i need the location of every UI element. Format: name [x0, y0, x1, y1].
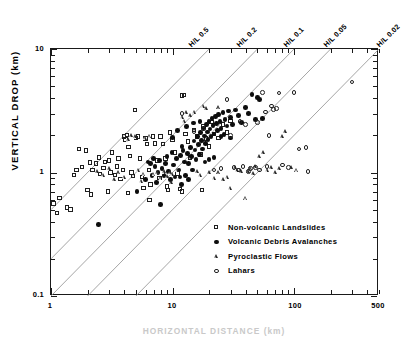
data-point — [153, 141, 157, 145]
data-point — [178, 153, 183, 158]
y-tick-right — [371, 296, 377, 297]
data-point — [243, 105, 248, 110]
y-tick-right — [373, 76, 377, 77]
data-point — [306, 169, 311, 174]
x-tick-top — [154, 49, 155, 53]
data-point — [170, 172, 174, 176]
data-point — [126, 137, 130, 141]
data-point — [225, 97, 230, 102]
data-point — [116, 170, 120, 174]
data-point — [139, 179, 143, 183]
x-tick-top — [275, 49, 276, 53]
data-point — [257, 168, 262, 173]
x-tick — [282, 290, 283, 294]
x-tick — [109, 290, 110, 294]
data-point — [116, 156, 120, 160]
data-point — [133, 108, 137, 112]
hl-label-0.5: H/L 0.5 — [187, 25, 211, 49]
data-point — [201, 127, 206, 132]
data-point — [280, 163, 285, 168]
data-point — [115, 164, 119, 168]
data-point — [216, 170, 220, 174]
x-tick — [146, 290, 147, 294]
data-point — [218, 119, 223, 124]
data-point — [162, 169, 166, 173]
legend-label: Volcanic Debris Avalanches — [228, 237, 337, 246]
data-point — [112, 177, 116, 181]
data-point — [238, 119, 243, 124]
open-triangle-icon — [214, 254, 218, 258]
data-point — [246, 169, 251, 174]
x-tick — [275, 290, 276, 294]
data-point — [57, 196, 61, 200]
x-tick-top — [246, 49, 247, 53]
y-tick — [51, 114, 55, 115]
x-tick-top — [146, 49, 147, 53]
data-point — [280, 134, 284, 138]
data-point — [147, 198, 151, 202]
data-point — [283, 129, 287, 133]
data-point — [141, 172, 145, 176]
y-tick-right — [373, 68, 377, 69]
data-point — [204, 106, 208, 110]
hl-label-0.05: H/L 0.05 — [322, 22, 349, 49]
data-point — [179, 182, 184, 187]
y-tick — [51, 76, 55, 77]
y-tick-right — [373, 98, 377, 99]
x-tick — [161, 290, 162, 294]
data-point — [260, 90, 265, 95]
y-tick-right — [373, 210, 377, 211]
data-point — [136, 168, 140, 172]
x-tick — [136, 290, 137, 294]
y-tick-right — [371, 49, 377, 50]
x-tick-top — [88, 49, 89, 53]
data-point — [182, 119, 186, 123]
data-point — [198, 119, 203, 124]
y-tick — [51, 178, 55, 179]
x-tick-top — [352, 49, 353, 53]
x-tick-top — [282, 49, 283, 53]
y-tick — [51, 68, 55, 69]
data-point — [141, 186, 145, 190]
data-point — [107, 158, 111, 162]
data-point — [263, 110, 268, 115]
y-tick — [51, 184, 55, 185]
data-point — [286, 165, 291, 170]
filled-circle-icon — [214, 240, 219, 245]
x-tick — [294, 288, 295, 294]
data-point — [184, 124, 189, 129]
y-tick-right — [373, 200, 377, 201]
data-point — [191, 121, 196, 126]
data-point — [161, 142, 165, 146]
x-tick — [88, 290, 89, 294]
y-tick-label-1: 1 — [16, 167, 44, 176]
data-point — [261, 150, 265, 154]
data-point — [175, 128, 180, 133]
data-point — [186, 161, 191, 166]
data-point — [192, 110, 196, 114]
y-tick-right — [373, 55, 377, 56]
data-point — [186, 139, 190, 143]
data-point — [203, 141, 208, 146]
legend-item-lahars: Lahars — [214, 265, 370, 280]
y-tick-right — [373, 184, 377, 185]
data-point — [89, 192, 93, 196]
y-tick — [51, 49, 57, 50]
data-point — [223, 117, 228, 122]
data-point — [166, 188, 170, 192]
y-tick — [51, 98, 55, 99]
y-tick-right — [371, 173, 377, 174]
legend-label: Lahars — [228, 266, 255, 275]
data-point — [189, 154, 194, 159]
data-point — [241, 164, 246, 169]
data-point — [255, 120, 260, 125]
data-point — [80, 165, 84, 169]
x-tick — [257, 290, 258, 294]
y-tick-right — [373, 222, 377, 223]
x-tick — [154, 290, 155, 294]
data-point — [101, 173, 105, 177]
data-point — [107, 166, 111, 170]
data-point — [273, 170, 277, 174]
x-tick — [231, 290, 232, 294]
data-point — [74, 168, 78, 172]
